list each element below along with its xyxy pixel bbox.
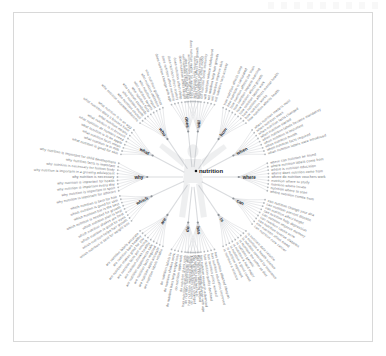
center-label: nutrition bbox=[199, 168, 223, 174]
page-root: why nutrition is important for child dev… bbox=[0, 0, 386, 356]
human-figure-silhouette bbox=[159, 143, 227, 218]
radial-dendrogram: why nutrition is important for child dev… bbox=[14, 13, 372, 341]
center-node: nutrition bbox=[195, 168, 224, 174]
leaf-label: has nutrition science changed bbox=[192, 255, 197, 304]
page-top-artifact bbox=[268, 2, 380, 9]
hub-label-which: which bbox=[134, 196, 149, 207]
hub-label-has: has bbox=[196, 226, 202, 235]
leaf-label-layer: why nutrition is important for child dev… bbox=[34, 40, 327, 312]
hub-label-where: where bbox=[242, 175, 257, 180]
diagram-canvas: why nutrition is important for child dev… bbox=[13, 12, 373, 342]
hub-label-will: will bbox=[196, 120, 202, 129]
hub-label-how: how bbox=[219, 127, 228, 138]
radial-dendrogram-svg: why nutrition is important for child dev… bbox=[14, 13, 372, 341]
hub-label-does: does bbox=[184, 117, 190, 129]
hub-label-do: do bbox=[185, 226, 191, 232]
leaf-label: where do nutrition vouchers work bbox=[272, 175, 326, 179]
hub-label-why: why bbox=[133, 175, 143, 180]
